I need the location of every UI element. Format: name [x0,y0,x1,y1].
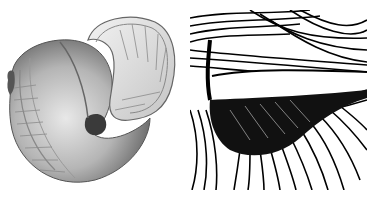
shell-detail-hatching [190,10,367,190]
shell-illustration [0,0,186,197]
